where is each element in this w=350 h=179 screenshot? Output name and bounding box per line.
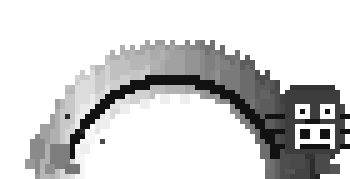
pixel-cat-artwork bbox=[0, 0, 350, 179]
artwork-stage bbox=[0, 0, 350, 179]
